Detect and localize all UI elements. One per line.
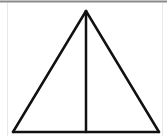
diagram-canvas xyxy=(0,0,167,136)
background xyxy=(0,0,167,136)
triangle-diagram xyxy=(0,0,167,136)
